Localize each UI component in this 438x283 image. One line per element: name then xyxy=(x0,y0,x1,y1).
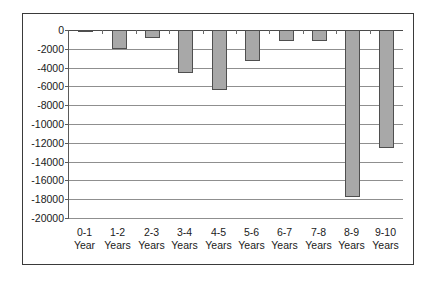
x-axis-tick-mark xyxy=(370,30,371,34)
x-axis-labels: 0-1Year1-2Years2-3Years3-4Years4-5Years5… xyxy=(68,222,403,262)
x-axis-tick-label: 8-9Years xyxy=(335,226,368,252)
x-axis-tick-label-line: Years xyxy=(168,239,201,252)
y-axis-tick-mark xyxy=(65,218,69,219)
y-axis-tick-mark xyxy=(65,124,69,125)
y-axis-tick-label: -4000 xyxy=(37,63,64,73)
x-axis-tick-label-line: Years xyxy=(135,239,168,252)
y-axis-tick-mark xyxy=(65,199,69,200)
x-axis-tick-mark xyxy=(236,30,237,34)
x-axis-tick-label-line: 2-3 xyxy=(135,226,168,239)
x-axis-tick-label-line: 4-5 xyxy=(202,226,235,239)
y-axis-tick-label: -2000 xyxy=(37,44,64,54)
x-axis-tick-label-line: 0-1 xyxy=(68,226,101,239)
x-axis-tick-mark xyxy=(102,30,103,34)
x-axis-tick-label-line: 9-10 xyxy=(369,226,402,239)
y-axis-tick-label: -8000 xyxy=(37,100,64,110)
x-axis-tick-mark xyxy=(336,30,337,34)
x-axis-tick-label-line: Years xyxy=(202,239,235,252)
x-axis-tick-label-line: Years xyxy=(268,239,301,252)
x-axis-tick-label: 4-5Years xyxy=(202,226,235,252)
y-axis-tick-mark xyxy=(65,86,69,87)
y-axis-tick-label: -12000 xyxy=(31,138,64,148)
y-axis-tick-label: -18000 xyxy=(31,194,64,204)
x-axis-tick-label-line: 3-4 xyxy=(168,226,201,239)
y-axis-tick-mark xyxy=(65,49,69,50)
bar xyxy=(145,30,160,38)
y-axis-tick-label: -10000 xyxy=(31,119,64,129)
x-axis-tick-label: 5-6Years xyxy=(235,226,268,252)
y-axis-tick-mark xyxy=(65,180,69,181)
y-axis-tick-label: -16000 xyxy=(31,175,64,185)
y-axis-tick-label: -14000 xyxy=(31,157,64,167)
x-axis-tick-label: 0-1Year xyxy=(68,226,101,252)
bar xyxy=(78,30,93,32)
y-axis-tick-label: -6000 xyxy=(37,81,64,91)
x-axis-tick-label: 2-3Years xyxy=(135,226,168,252)
y-axis-tick-label: -20000 xyxy=(31,213,64,223)
bar xyxy=(379,30,394,148)
chart-plot-frame: 0-2000-4000-6000-8000-10000-12000-14000-… xyxy=(22,13,414,265)
gridline xyxy=(69,199,403,200)
y-axis-tick-mark xyxy=(65,143,69,144)
x-axis-tick-label: 9-10Years xyxy=(369,226,402,252)
y-axis-tick-mark xyxy=(65,105,69,106)
bar xyxy=(245,30,260,61)
plot-area xyxy=(68,30,403,219)
x-axis-tick-label-line: 5-6 xyxy=(235,226,268,239)
x-axis-tick-mark xyxy=(136,30,137,34)
x-axis-tick-label: 7-8Years xyxy=(302,226,335,252)
chart-container: 0-2000-4000-6000-8000-10000-12000-14000-… xyxy=(0,0,438,283)
x-axis-tick-label-line: Years xyxy=(235,239,268,252)
bar xyxy=(312,30,327,41)
x-axis-tick-mark xyxy=(169,30,170,34)
bar xyxy=(212,30,227,90)
y-axis-tick-mark xyxy=(65,68,69,69)
y-axis-labels: 0-2000-4000-6000-8000-10000-12000-14000-… xyxy=(23,30,64,219)
y-axis-tick-mark xyxy=(65,30,69,31)
bar xyxy=(345,30,360,197)
x-axis-tick-label-line: 7-8 xyxy=(302,226,335,239)
x-axis-tick-label-line: Years xyxy=(101,239,134,252)
y-axis-tick-mark xyxy=(65,162,69,163)
x-axis-tick-mark xyxy=(303,30,304,34)
x-axis-tick-label-line: Years xyxy=(335,239,368,252)
x-axis-tick-mark xyxy=(269,30,270,34)
bar xyxy=(279,30,294,41)
x-axis-tick-label-line: Years xyxy=(369,239,402,252)
bar xyxy=(178,30,193,73)
x-axis-tick-label: 6-7Years xyxy=(268,226,301,252)
gridline xyxy=(69,218,403,219)
x-axis-tick-label-line: Year xyxy=(68,239,101,252)
x-axis-tick-label: 3-4Years xyxy=(168,226,201,252)
x-axis-tick-label: 1-2Years xyxy=(101,226,134,252)
x-axis-tick-label-line: Years xyxy=(302,239,335,252)
x-axis-tick-label-line: 8-9 xyxy=(335,226,368,239)
bar xyxy=(112,30,127,49)
x-axis-tick-label-line: 1-2 xyxy=(101,226,134,239)
x-axis-tick-label-line: 6-7 xyxy=(268,226,301,239)
y-axis-tick-label: 0 xyxy=(58,25,64,35)
x-axis-tick-mark xyxy=(203,30,204,34)
